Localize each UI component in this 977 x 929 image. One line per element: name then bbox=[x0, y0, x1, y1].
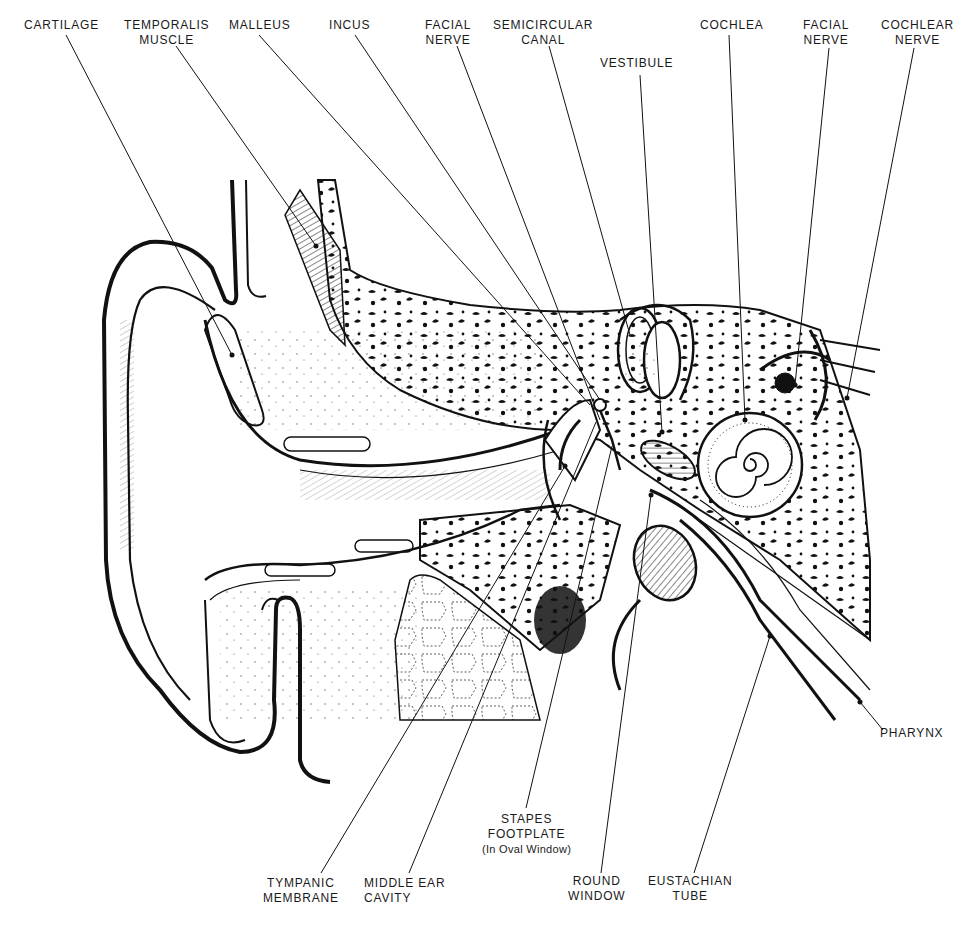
label-text: STAPES bbox=[482, 812, 571, 827]
label-text: FOOTPLATE bbox=[482, 827, 571, 842]
label-facial-nerve-2: FACIAL NERVE bbox=[803, 18, 849, 48]
label-text: ROUND bbox=[568, 874, 625, 889]
label-text: WINDOW bbox=[568, 889, 625, 904]
label-stapes-footplate: STAPES FOOTPLATE (In Oval Window) bbox=[482, 812, 571, 857]
helix-hatching bbox=[120, 320, 134, 550]
label-text: NERVE bbox=[425, 33, 471, 48]
label-tympanic-membrane: TYMPANIC MEMBRANE bbox=[263, 876, 339, 906]
label-text: VESTIBULE bbox=[600, 56, 673, 71]
label-text: FACIAL bbox=[425, 18, 471, 33]
label-text: INCUS bbox=[329, 18, 370, 33]
label-eustachian-tube: EUSTACHIAN TUBE bbox=[648, 874, 732, 904]
label-round-window: ROUND WINDOW bbox=[568, 874, 625, 904]
label-text: SEMICIRCULAR bbox=[493, 18, 593, 33]
label-text: MIDDLE EAR bbox=[364, 876, 445, 891]
label-text: TUBE bbox=[648, 889, 732, 904]
label-text: NERVE bbox=[881, 33, 954, 48]
label-text: COCHLEA bbox=[700, 18, 764, 33]
label-middle-ear-cavity: MIDDLE EAR CAVITY bbox=[364, 876, 445, 906]
label-text: TEMPORALIS bbox=[124, 18, 209, 33]
label-text: COCHLEAR bbox=[881, 18, 954, 33]
label-vestibule: VESTIBULE bbox=[600, 56, 673, 71]
label-text: CARTILAGE bbox=[24, 18, 99, 33]
label-text: EUSTACHIAN bbox=[648, 874, 732, 889]
label-text: CAVITY bbox=[364, 891, 445, 906]
label-cochlea: COCHLEA bbox=[700, 18, 764, 33]
vestibule-shape bbox=[624, 342, 656, 398]
label-text: NERVE bbox=[803, 33, 849, 48]
label-semicircular-canal: SEMICIRCULAR CANAL bbox=[493, 18, 593, 48]
cochlea-shape bbox=[698, 413, 802, 517]
label-incus: INCUS bbox=[329, 18, 370, 33]
ear-anatomy-diagram: CARTILAGE TEMPORALIS MUSCLE MALLEUS INCU… bbox=[0, 0, 977, 929]
label-text: MUSCLE bbox=[124, 33, 209, 48]
lobule-stipple bbox=[220, 590, 420, 720]
label-text: PHARYNX bbox=[880, 726, 943, 741]
ear-illustration bbox=[0, 0, 977, 929]
label-facial-nerve: FACIAL NERVE bbox=[425, 18, 471, 48]
label-text: MEMBRANE bbox=[263, 891, 339, 906]
label-text: (In Oval Window) bbox=[482, 842, 571, 857]
label-cartilage: CARTILAGE bbox=[24, 18, 99, 33]
label-cochlear-nerve: COCHLEAR NERVE bbox=[881, 18, 954, 48]
label-text: CANAL bbox=[493, 33, 593, 48]
label-text: FACIAL bbox=[803, 18, 849, 33]
label-text: TYMPANIC bbox=[263, 876, 339, 891]
label-temporalis-muscle: TEMPORALIS MUSCLE bbox=[124, 18, 209, 48]
dark-cell bbox=[534, 586, 586, 654]
label-text: MALLEUS bbox=[229, 18, 291, 33]
canal-hatching bbox=[300, 470, 550, 500]
label-pharynx: PHARYNX bbox=[880, 726, 943, 741]
label-malleus: MALLEUS bbox=[229, 18, 291, 33]
